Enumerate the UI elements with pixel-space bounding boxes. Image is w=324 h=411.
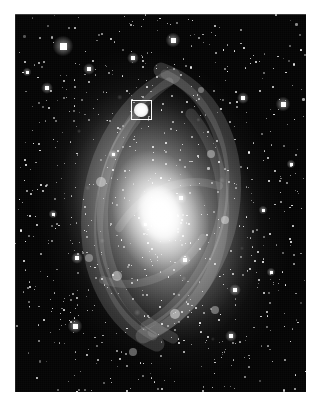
roi-marker-box[interactable] [131,100,152,120]
galaxy-nucleus [15,14,306,392]
figure-caption [0,0,1,1]
figure-page [0,0,324,411]
galaxy-image-plate [15,14,306,392]
